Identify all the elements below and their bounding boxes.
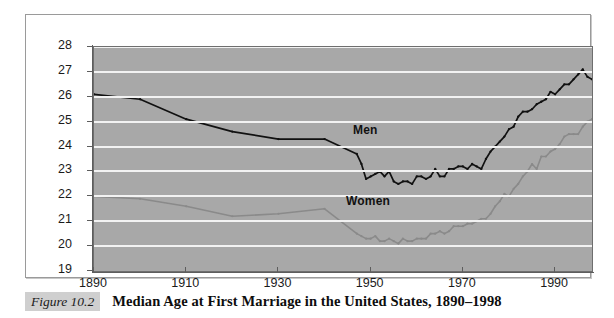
- data-point: [277, 213, 279, 215]
- data-point: [577, 73, 579, 75]
- data-point: [383, 175, 385, 177]
- data-point: [577, 133, 579, 135]
- series-label-men: Men: [353, 123, 378, 137]
- data-point: [430, 233, 432, 235]
- y-tick-mark: [87, 170, 93, 171]
- data-point: [397, 183, 399, 185]
- data-point: [231, 130, 233, 132]
- data-point: [379, 240, 381, 242]
- data-point: [549, 91, 551, 93]
- data-point: [489, 150, 491, 152]
- data-point: [411, 183, 413, 185]
- plot-area: [93, 46, 593, 272]
- data-point: [572, 78, 574, 80]
- data-point: [545, 155, 547, 157]
- data-point: [356, 233, 358, 235]
- y-tick-label: 20: [46, 238, 72, 250]
- data-point: [448, 230, 450, 232]
- data-point: [485, 158, 487, 160]
- data-point: [420, 175, 422, 177]
- data-point: [416, 175, 418, 177]
- x-tick-mark: [185, 267, 186, 273]
- data-point: [462, 225, 464, 227]
- data-point: [402, 238, 404, 240]
- data-point: [383, 240, 385, 242]
- data-point: [572, 133, 574, 135]
- y-tick-mark: [87, 71, 93, 72]
- x-tick-mark: [93, 267, 94, 273]
- data-point: [374, 235, 376, 237]
- data-point: [471, 223, 473, 225]
- series-line-women: [94, 119, 592, 243]
- gridline: [94, 195, 592, 197]
- data-point: [568, 83, 570, 85]
- data-point: [476, 165, 478, 167]
- gridline: [94, 220, 592, 222]
- data-point: [406, 180, 408, 182]
- data-point: [540, 101, 542, 103]
- x-tick-label: 1970: [432, 277, 492, 290]
- data-point: [554, 148, 556, 150]
- data-point: [360, 235, 362, 237]
- data-point: [416, 238, 418, 240]
- y-tick-label: 22: [46, 188, 72, 200]
- data-point: [540, 155, 542, 157]
- data-point: [462, 165, 464, 167]
- data-point: [443, 175, 445, 177]
- data-point: [471, 163, 473, 165]
- y-tick-mark: [87, 46, 93, 47]
- data-point: [517, 116, 519, 118]
- data-point: [549, 150, 551, 152]
- gridline: [94, 146, 592, 148]
- data-point: [517, 183, 519, 185]
- data-point: [499, 200, 501, 202]
- data-point: [563, 136, 565, 138]
- gridline: [94, 170, 592, 172]
- y-tick-mark: [87, 121, 93, 122]
- data-point: [388, 238, 390, 240]
- x-axis-line: [92, 272, 594, 273]
- data-point: [499, 140, 501, 142]
- y-tick-mark: [87, 245, 93, 246]
- gridline: [94, 96, 592, 98]
- x-tick-label: 1990: [524, 277, 584, 290]
- data-point: [185, 205, 187, 207]
- x-tick-label: 1930: [247, 277, 307, 290]
- data-point: [526, 111, 528, 113]
- data-point: [425, 238, 427, 240]
- series-svg: [94, 47, 592, 271]
- y-tick-label: 26: [46, 89, 72, 101]
- data-point: [393, 180, 395, 182]
- data-point: [489, 213, 491, 215]
- data-point: [420, 238, 422, 240]
- data-point: [139, 98, 141, 100]
- data-point: [494, 205, 496, 207]
- data-point: [545, 98, 547, 100]
- data-point: [503, 135, 505, 137]
- y-tick-mark: [87, 220, 93, 221]
- data-point: [365, 178, 367, 180]
- data-point: [374, 173, 376, 175]
- data-point: [360, 163, 362, 165]
- data-point: [582, 126, 584, 128]
- data-point: [443, 233, 445, 235]
- data-point: [531, 163, 533, 165]
- data-point: [370, 238, 372, 240]
- data-point: [406, 240, 408, 242]
- data-point: [411, 240, 413, 242]
- gridline: [94, 121, 592, 123]
- data-point: [508, 128, 510, 130]
- data-point: [439, 230, 441, 232]
- x-tick-mark: [554, 267, 555, 273]
- y-tick-mark: [87, 96, 93, 97]
- y-tick-label: 24: [46, 139, 72, 151]
- data-point: [559, 88, 561, 90]
- data-point: [457, 165, 459, 167]
- data-point: [568, 133, 570, 135]
- x-tick-mark: [370, 267, 371, 273]
- data-point: [531, 108, 533, 110]
- data-point: [466, 223, 468, 225]
- figure-container: 19202122232425262728 1890191019301950197…: [0, 0, 614, 318]
- x-tick-label: 1950: [340, 277, 400, 290]
- gridline: [94, 46, 592, 48]
